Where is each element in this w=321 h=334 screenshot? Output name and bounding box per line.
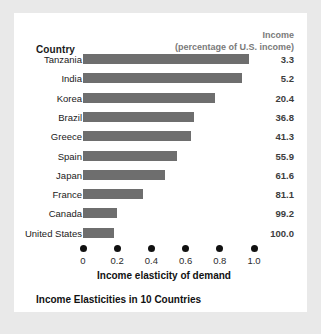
row-bar (83, 54, 249, 64)
tick-dot-icon (251, 245, 258, 252)
income-header-line1: Income (175, 30, 294, 42)
x-axis-title: Income elasticity of demand (69, 270, 259, 281)
chart-row: Korea20.4 (14, 90, 307, 109)
row-bar (83, 189, 143, 199)
tick-dot-icon (80, 245, 87, 252)
row-value-income-pct: 99.2 (276, 208, 295, 219)
row-label-country: Canada (14, 208, 82, 219)
chart-row: France81.1 (14, 186, 307, 205)
row-label-country: France (14, 189, 82, 200)
row-bar (83, 93, 215, 103)
column-header-income: Income (percentage of U.S. income) (175, 30, 294, 53)
tick-dot-icon (114, 245, 121, 252)
row-value-income-pct: 81.1 (276, 189, 295, 200)
row-value-income-pct: 3.3 (281, 54, 294, 65)
tick-dot-icon (148, 245, 155, 252)
row-bar (83, 228, 114, 238)
row-bar (83, 112, 194, 122)
row-label-country: Greece (14, 131, 82, 142)
x-axis-tick-label: 0.6 (170, 255, 202, 266)
x-axis-tick-label: 0.4 (135, 255, 167, 266)
row-bar (83, 208, 117, 218)
row-value-income-pct: 41.3 (276, 131, 295, 142)
chart-row: Brazil36.8 (14, 109, 307, 128)
figure-caption: Income Elasticities in 10 Countries (36, 294, 201, 305)
row-label-country: Brazil (14, 112, 82, 123)
row-value-income-pct: 5.2 (281, 73, 294, 84)
chart-row: United States100.0 (14, 225, 307, 244)
chart-row: Japan61.6 (14, 167, 307, 186)
x-axis-tick-label: 0.8 (204, 255, 236, 266)
chart-row: Greece41.3 (14, 128, 307, 147)
chart-row: Spain55.9 (14, 148, 307, 167)
row-bar (83, 170, 165, 180)
row-label-country: Japan (14, 170, 82, 181)
row-value-income-pct: 100.0 (270, 228, 294, 239)
tick-dot-icon (216, 245, 223, 252)
x-axis-tick-label: 0 (67, 255, 99, 266)
row-label-country: Tanzania (14, 54, 82, 65)
row-label-country: India (14, 73, 82, 84)
row-label-country: Korea (14, 93, 82, 104)
row-value-income-pct: 61.6 (276, 170, 295, 181)
row-value-income-pct: 20.4 (276, 93, 295, 104)
row-bar (83, 73, 242, 83)
chart-figure: Country Income (percentage of U.S. incom… (14, 13, 307, 312)
chart-row: India5.2 (14, 70, 307, 89)
row-bar (83, 151, 177, 161)
tick-dot-icon (182, 245, 189, 252)
x-axis: 00.20.40.60.81.0 Income elasticity of de… (14, 245, 307, 285)
row-value-income-pct: 36.8 (276, 112, 295, 123)
row-value-income-pct: 55.9 (276, 151, 295, 162)
row-label-country: United States (14, 228, 82, 239)
chart-row: Canada99.2 (14, 205, 307, 224)
chart-row: Tanzania3.3 (14, 51, 307, 70)
x-axis-tick-label: 1.0 (238, 255, 270, 266)
row-bar (83, 131, 191, 141)
row-label-country: Spain (14, 151, 82, 162)
x-axis-tick-label: 0.2 (101, 255, 133, 266)
